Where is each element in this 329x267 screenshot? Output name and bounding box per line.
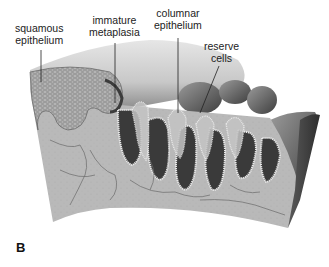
label-line: epithelium bbox=[154, 19, 202, 31]
label-line: metaplasia bbox=[89, 26, 140, 38]
label-line: immature bbox=[89, 14, 140, 26]
figure-canvas: squamous epithelium immature metaplasia … bbox=[0, 0, 329, 267]
panel-letter: B bbox=[16, 240, 25, 255]
label-line: squamous bbox=[15, 22, 63, 34]
label-squamous-epithelium: squamous epithelium bbox=[15, 22, 63, 46]
label-columnar-epithelium: columnar epithelium bbox=[154, 7, 202, 31]
label-line: cells bbox=[204, 52, 239, 64]
label-reserve-cells: reserve cells bbox=[204, 40, 239, 64]
label-immature-metaplasia: immature metaplasia bbox=[89, 14, 140, 38]
label-line: epithelium bbox=[15, 34, 63, 46]
label-line: reserve bbox=[204, 40, 239, 52]
label-line: columnar bbox=[154, 7, 202, 19]
